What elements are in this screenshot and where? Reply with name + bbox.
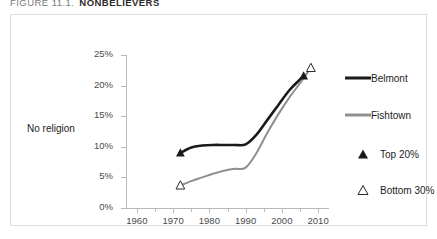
x-tick-label: 1990 <box>235 215 256 226</box>
legend-line-swatch-fishtown <box>345 108 371 122</box>
legend-label-fishtown: Fishtown <box>371 110 411 121</box>
x-tick-label: 1980 <box>199 215 220 226</box>
open-triangle-icon <box>355 183 371 197</box>
legend-label-bottom-30: Bottom 30% <box>380 185 434 196</box>
y-tick-label: 0% <box>99 201 113 212</box>
series-line-fishtown <box>180 68 311 186</box>
x-tick-label: 2000 <box>271 215 292 226</box>
y-tick-label: 20% <box>94 79 113 90</box>
filled-triangle-icon <box>355 147 371 161</box>
y-tick-label: 5% <box>99 170 113 181</box>
figure-caption-number: FIGURE 11.1. <box>10 0 74 8</box>
y-axis-title: No religion <box>27 123 75 134</box>
x-tick-label: 1960 <box>126 215 147 226</box>
legend-label-top-20: Top 20% <box>380 149 419 160</box>
figure-caption: FIGURE 11.1.NONBELIEVERS <box>10 0 160 10</box>
legend-item-bottom-30[interactable]: Bottom 30% <box>355 183 434 197</box>
series-marker-open-triangle-fishtown <box>307 63 316 71</box>
plot-area: 0%5%10%15%20%25% 19601970198019902000201… <box>126 55 329 208</box>
x-tick-label: 2010 <box>308 215 329 226</box>
figure-caption-title: NONBELIEVERS <box>79 0 159 8</box>
series-line-belmont <box>180 76 303 153</box>
legend-item-fishtown[interactable]: Fishtown <box>345 108 411 122</box>
y-tick-label: 15% <box>94 109 113 120</box>
y-tick-label: 10% <box>94 140 113 151</box>
legend-item-top-20[interactable]: Top 20% <box>355 147 419 161</box>
y-tick-label: 25% <box>94 48 113 59</box>
legend-line-swatch-belmont <box>345 71 371 85</box>
figure-frame: No religion 0%5%10%15%20%25% 19601970198… <box>10 14 427 226</box>
series-layer <box>126 55 329 209</box>
legend-label-belmont: Belmont <box>371 73 408 84</box>
legend-item-belmont[interactable]: Belmont <box>345 71 408 85</box>
x-tick-label: 1970 <box>163 215 184 226</box>
